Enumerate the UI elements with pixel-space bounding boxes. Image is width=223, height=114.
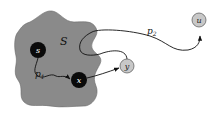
node-s: s xyxy=(30,42,46,58)
region-label: S xyxy=(60,35,68,48)
node-s-label: s xyxy=(36,46,40,55)
node-x: x xyxy=(71,72,87,88)
region-s-blob xyxy=(15,11,101,107)
label-p2: p2 xyxy=(147,26,157,37)
diagram-canvas: S s x y u p1 p2 xyxy=(0,0,223,114)
node-u: u xyxy=(192,13,206,27)
svg-text:p2: p2 xyxy=(147,26,157,37)
p2-subscript: 2 xyxy=(152,30,157,37)
path-p2 xyxy=(92,30,200,50)
node-y: y xyxy=(120,59,134,73)
node-y-label: y xyxy=(124,62,130,71)
node-x-label: x xyxy=(77,76,82,85)
p1-subscript: 1 xyxy=(41,73,45,80)
node-u-label: u xyxy=(196,16,201,25)
